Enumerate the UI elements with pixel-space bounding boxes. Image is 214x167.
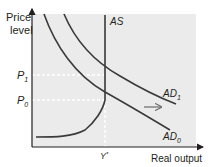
- x-axis-label: Real output: [151, 153, 202, 164]
- plot-area: [32, 14, 196, 147]
- y-axis-label-line1: Price: [6, 11, 31, 23]
- as-label: AS: [109, 16, 124, 27]
- y-axis-label-line2: level: [10, 24, 33, 36]
- y-star-label: Y*: [100, 151, 109, 161]
- p1-label: P1: [17, 69, 28, 83]
- as-ad-diagram: Price level Real output P1 P0 Y* AS AD1 …: [0, 0, 214, 167]
- p0-label: P0: [17, 94, 28, 108]
